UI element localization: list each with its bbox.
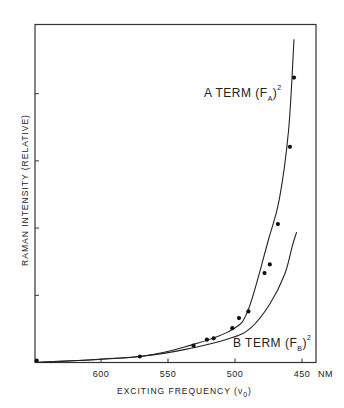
raman-intensity-chart: 600550500450 NM EXCITING FREQUENCY (ν0) … xyxy=(0,0,344,408)
x-tick-label: 450 xyxy=(294,369,311,379)
data-point xyxy=(262,271,266,275)
a-term-label: A TERM (FA)2 xyxy=(204,84,282,102)
data-point xyxy=(191,344,195,348)
data-points xyxy=(35,76,297,363)
x-tick-label: 550 xyxy=(160,369,177,379)
x-axis-ticks: 600550500450 xyxy=(93,359,311,380)
data-point xyxy=(230,326,234,330)
data-point xyxy=(288,145,292,149)
y-axis-title: RAMAN INTENSITY (RELATIVE) xyxy=(20,114,30,266)
data-point xyxy=(276,222,280,226)
x-tick-label: 600 xyxy=(93,369,110,379)
data-point xyxy=(35,358,39,362)
data-point xyxy=(212,336,216,340)
data-point xyxy=(246,309,250,313)
x-axis-title: EXCITING FREQUENCY (ν0) xyxy=(117,386,252,398)
x-unit-label: NM xyxy=(318,369,333,379)
plot-frame xyxy=(35,25,316,363)
data-point xyxy=(268,262,272,266)
b-term-label: B TERM (FB)2 xyxy=(233,334,311,352)
data-point xyxy=(292,76,296,80)
data-point xyxy=(237,316,241,320)
x-tick-label: 500 xyxy=(227,369,244,379)
data-point xyxy=(138,354,142,358)
data-point xyxy=(205,338,209,342)
